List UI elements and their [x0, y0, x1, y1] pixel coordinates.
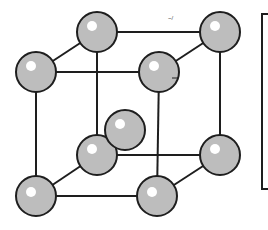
- atom-highlight: [147, 187, 157, 197]
- atom-back-top-left: [77, 12, 117, 52]
- atom-highlight: [210, 144, 220, 154]
- atom-highlight: [115, 119, 125, 129]
- atom-back-top-right: [200, 12, 240, 52]
- atom-front-bottom-left: [16, 176, 56, 216]
- atom-back-bottom-right: [200, 135, 240, 175]
- stray-mark: ~/: [168, 15, 174, 21]
- atom-front-top-left: [16, 52, 56, 92]
- atom-highlight: [87, 21, 97, 31]
- atom-highlight: [87, 144, 97, 154]
- atom-highlight: [210, 21, 220, 31]
- atom-front-bottom-right: [137, 176, 177, 216]
- atom-highlight: [26, 61, 36, 71]
- atom-body-center: [105, 110, 145, 150]
- atom-front-top-right: [139, 52, 179, 92]
- atom-highlight: [149, 61, 159, 71]
- bcc-unit-cell-diagram: ~/: [0, 0, 268, 230]
- right-bracket: [262, 14, 268, 189]
- atom-highlight: [26, 187, 36, 197]
